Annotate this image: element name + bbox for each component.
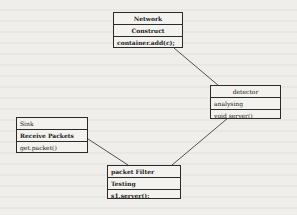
link-sink-packet-filter xyxy=(88,139,128,165)
class-name: packet Filter xyxy=(108,166,180,178)
class-method: void server() xyxy=(211,110,280,121)
class-box-network: Network Construct container.add(c); xyxy=(113,12,183,48)
class-attribute: Receive Packets xyxy=(17,130,87,142)
class-box-sink: Sink Receive Packets get.packet() xyxy=(16,117,88,153)
link-detector-packet-filter xyxy=(172,118,228,165)
class-name: Network xyxy=(114,13,182,25)
class-attribute: Testing xyxy=(108,178,180,190)
class-name: Sink xyxy=(17,118,87,130)
class-method: s1.server(); xyxy=(108,190,180,201)
diagram-canvas: Network Construct container.add(c); dete… xyxy=(0,0,297,215)
class-box-detector: detector analysing void server() xyxy=(210,85,281,119)
link-network-detector xyxy=(174,48,219,86)
class-box-packet-filter: packet Filter Testing s1.server(); xyxy=(107,165,181,199)
class-attribute: Construct xyxy=(114,25,182,37)
class-method: get.packet() xyxy=(17,142,87,153)
class-name: detector xyxy=(211,86,280,98)
class-attribute: analysing xyxy=(211,98,280,110)
class-method: container.add(c); xyxy=(114,37,182,48)
